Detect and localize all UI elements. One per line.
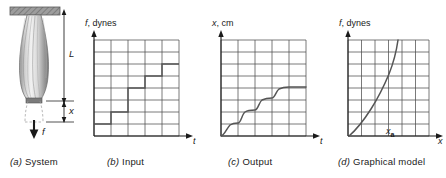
xa-sub: a: [391, 131, 395, 138]
axis-label-c: x, cm: [212, 18, 234, 28]
caption-c-name: Output: [243, 156, 273, 167]
grid-c: [221, 40, 306, 136]
caption-c-tag: (c): [228, 156, 240, 167]
axis-label-d: f, dynes: [339, 18, 371, 28]
series-output-creep: [221, 87, 306, 136]
axis-x-label-b-var: t: [193, 136, 196, 146]
figure-elastic-fiber-system: L x f (a) System f, dynes: [0, 0, 446, 178]
fiber-specimen-icon: [19, 15, 48, 103]
caption-a: (a) System: [10, 156, 58, 167]
axis-label-b-unit: , dynes: [88, 18, 117, 28]
length-label: L: [69, 48, 74, 59]
axis-x-label-c-var: t: [320, 136, 323, 146]
axis-x-label-d: x: [438, 136, 443, 146]
ceiling-hatch-icon: [10, 7, 60, 15]
axes-b: [91, 30, 193, 139]
axis-x-label-b: t: [193, 136, 196, 146]
extension-label: x: [69, 105, 74, 116]
axis-x-label-d-var: x: [438, 136, 443, 146]
force-arrow-icon: [30, 120, 39, 139]
axis-label-d-unit: , dynes: [342, 18, 371, 28]
caption-d: (d) Graphical model: [338, 156, 425, 167]
series-input-step: [94, 64, 179, 124]
caption-d-tag: (d): [338, 156, 350, 167]
axis-x-label-c: t: [320, 136, 323, 146]
caption-d-name: Graphical model: [353, 156, 425, 167]
caption-c: (c) Output: [228, 156, 272, 167]
system-schematic: [2, 2, 88, 147]
axes-c: [218, 30, 320, 139]
force-label: f: [42, 126, 45, 137]
caption-b-name: Input: [122, 156, 144, 167]
chart-output: [211, 28, 327, 150]
chart-input: [84, 28, 200, 150]
caption-b: (b) Input: [107, 156, 144, 167]
stretched-outline: [25, 101, 43, 122]
axis-label-b: f, dynes: [85, 18, 117, 28]
caption-a-tag: (a): [10, 156, 22, 167]
caption-b-tag: (b): [107, 156, 119, 167]
axis-label-c-unit: , cm: [217, 18, 234, 28]
xa-annotation: xa: [386, 126, 394, 138]
grid-d: [348, 40, 429, 136]
caption-a-name: System: [25, 156, 58, 167]
axes-d: [345, 30, 443, 139]
